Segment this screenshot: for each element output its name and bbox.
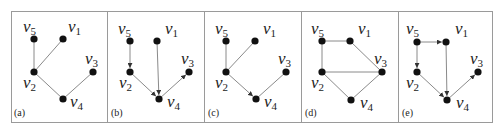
vertex-label-v5: v5 bbox=[23, 17, 37, 37]
vertex-label-v1: v1 bbox=[455, 19, 468, 39]
vertex-v4 bbox=[252, 95, 259, 102]
vertex-label-v1: v1 bbox=[263, 19, 276, 39]
panel-e: v1v2v3v4v5(e) bbox=[402, 19, 484, 119]
vertex-v4 bbox=[443, 96, 450, 103]
vertex-label-v3: v3 bbox=[278, 49, 292, 69]
vertex-v2 bbox=[222, 68, 229, 75]
panel-a: v1v2v3v4v5(a) bbox=[14, 17, 99, 119]
vertex-label-v3: v3 bbox=[181, 49, 195, 69]
panel-label-b: (b) bbox=[111, 107, 123, 119]
vertex-v1 bbox=[251, 37, 258, 44]
edge-v2-v4 bbox=[34, 72, 63, 99]
vertex-label-v1: v1 bbox=[165, 19, 178, 39]
edge-v2-v4-arrow bbox=[417, 72, 444, 97]
vertex-v1 bbox=[442, 38, 449, 45]
vertex-label-v2: v2 bbox=[215, 73, 228, 93]
vertex-v2 bbox=[30, 68, 37, 75]
edge-v1-v2 bbox=[34, 39, 63, 72]
vertex-label-v2: v2 bbox=[406, 73, 419, 93]
vertex-v1 bbox=[59, 35, 66, 42]
vertex-label-v4: v4 bbox=[264, 92, 278, 112]
edge-v2-v4 bbox=[322, 72, 351, 100]
edge-v3-v4 bbox=[63, 72, 93, 99]
vertex-v4 bbox=[59, 95, 66, 102]
vertex-v3 bbox=[282, 68, 289, 75]
panel-c: v1v2v3v4v5(c) bbox=[208, 19, 292, 119]
vertex-label-v4: v4 bbox=[70, 92, 84, 112]
vertex-label-v4: v4 bbox=[360, 93, 374, 113]
panel-label-c: (c) bbox=[208, 107, 219, 119]
vertex-label-v1: v1 bbox=[68, 17, 81, 37]
vertex-label-v5: v5 bbox=[406, 19, 420, 39]
panel-dividers bbox=[108, 11, 399, 122]
graph-figure: v1v2v3v4v5(a)v1v2v3v4v5(b)v1v2v3v4v5(c)v… bbox=[0, 0, 502, 129]
figure-frame bbox=[12, 12, 493, 123]
vertex-label-v5: v5 bbox=[215, 19, 229, 39]
vertex-label-v1: v1 bbox=[358, 19, 371, 39]
vertex-v4 bbox=[155, 95, 162, 102]
vertex-label-v2: v2 bbox=[311, 73, 324, 93]
vertex-v5 bbox=[413, 38, 420, 45]
vertex-label-v4: v4 bbox=[167, 92, 181, 112]
edge-v1-v4-arrow bbox=[157, 41, 159, 95]
vertex-label-v3: v3 bbox=[85, 49, 99, 69]
vertex-label-v2: v2 bbox=[23, 73, 36, 93]
panels: v1v2v3v4v5(a)v1v2v3v4v5(b)v1v2v3v4v5(c)v… bbox=[14, 17, 484, 119]
edge-v1-v4-arrow bbox=[446, 42, 447, 96]
vertex-v1 bbox=[153, 37, 160, 44]
panel-label-a: (a) bbox=[14, 107, 25, 119]
vertex-v3 bbox=[474, 68, 481, 75]
vertex-label-v3: v3 bbox=[374, 49, 388, 69]
panel-label-e: (e) bbox=[402, 107, 413, 119]
panel-b: v1v2v3v4v5(b) bbox=[111, 19, 195, 119]
vertex-v3 bbox=[378, 68, 385, 75]
vertex-v4 bbox=[347, 96, 354, 103]
panel-d: v1v2v3v4v5(d) bbox=[305, 19, 388, 119]
vertex-label-v5: v5 bbox=[311, 19, 325, 39]
panel-label-d: (d) bbox=[305, 107, 317, 119]
vertex-label-v3: v3 bbox=[470, 49, 484, 69]
vertex-v3 bbox=[89, 68, 96, 75]
vertex-v2 bbox=[126, 68, 133, 75]
vertex-v2 bbox=[318, 68, 325, 75]
vertex-label-v4: v4 bbox=[456, 93, 470, 113]
vertex-label-v2: v2 bbox=[119, 73, 132, 93]
vertex-v3 bbox=[185, 68, 192, 75]
edge-v1-v2 bbox=[226, 41, 255, 72]
edge-v2-v4-arrow bbox=[226, 72, 253, 96]
edge-v2-v4-arrow bbox=[130, 72, 156, 96]
vertex-v2 bbox=[413, 68, 420, 75]
vertex-v1 bbox=[346, 37, 353, 44]
vertex-label-v5: v5 bbox=[118, 19, 132, 39]
